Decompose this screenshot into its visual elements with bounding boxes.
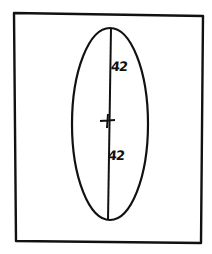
upper-semi-axis-label: 42 — [110, 59, 128, 74]
lower-semi-axis-label: 42 — [107, 148, 125, 163]
major-axis-line — [108, 28, 111, 220]
center-cross-mark — [100, 114, 115, 128]
diagram-canvas — [0, 0, 212, 254]
